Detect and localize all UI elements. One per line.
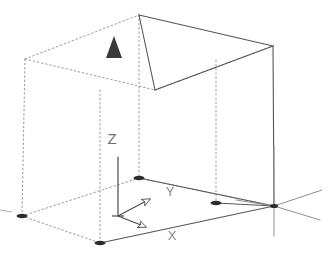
hidden-edges-group bbox=[22, 15, 274, 243]
visible-edges-group bbox=[100, 15, 274, 243]
vertex-base-front bbox=[95, 241, 106, 245]
vertex-origin bbox=[270, 204, 278, 208]
edge-base-left-back bbox=[22, 178, 139, 216]
edge-top-back-right bbox=[25, 59, 155, 90]
north-arrow-icon bbox=[106, 36, 122, 58]
edge-top-back-left bbox=[25, 15, 139, 59]
edge-vert-left bbox=[22, 59, 25, 216]
crosshair-ray-up bbox=[274, 190, 322, 206]
axis-label-x: X bbox=[168, 228, 177, 243]
vertex-base-left bbox=[17, 214, 28, 218]
left-edge-tick bbox=[0, 210, 12, 212]
edge-top-apex-right bbox=[139, 15, 273, 46]
axis-label-y: Y bbox=[166, 184, 175, 199]
axis-label-z: Z bbox=[107, 130, 116, 147]
axis-line-y bbox=[118, 199, 150, 216]
edge-top-apex-front bbox=[139, 15, 155, 90]
origin-crosshair bbox=[236, 146, 322, 236]
wireframe-scene: Z Y X bbox=[0, 0, 328, 260]
edge-base-left-front bbox=[22, 216, 100, 243]
vertex-markers-group bbox=[17, 176, 279, 245]
edge-top-front-run bbox=[155, 46, 273, 90]
edge-base-back-right-solid bbox=[139, 178, 274, 206]
diagram-canvas: Z Y X bbox=[0, 0, 328, 260]
coordinate-triad bbox=[112, 157, 150, 227]
vertex-base-back bbox=[134, 176, 145, 180]
axis-line-x bbox=[118, 216, 146, 227]
vertex-base-right bbox=[211, 201, 222, 205]
crosshair-ray-down bbox=[274, 206, 320, 220]
